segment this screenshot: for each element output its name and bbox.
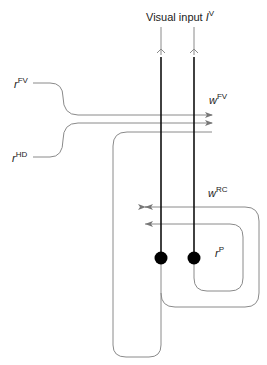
rfv-wire <box>33 83 212 115</box>
rhd-label: rHD <box>12 150 27 164</box>
visual-input-label: Visual input IV <box>146 9 214 23</box>
neuron-2 <box>188 252 201 265</box>
circuit-diagram <box>0 0 267 365</box>
rhd-wire <box>33 123 212 157</box>
rfv-label: rFV <box>14 76 28 90</box>
rp-label: rP <box>215 245 224 259</box>
wrc-label: wRC <box>208 185 228 199</box>
wfv-label: wFV <box>209 92 227 106</box>
neuron-1 <box>155 252 168 265</box>
left-loop-wire <box>113 132 212 357</box>
